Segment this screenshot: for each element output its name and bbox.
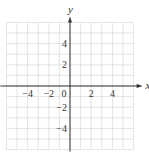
y-axis-arrow-icon xyxy=(68,16,72,22)
x-axis-arrow-icon xyxy=(137,84,143,88)
y-axis-label: y xyxy=(67,3,73,15)
y-tick-label: −4 xyxy=(56,123,67,134)
x-tick-label: −2 xyxy=(43,88,54,99)
y-tick-label: −2 xyxy=(56,102,67,113)
x-tick-label: 2 xyxy=(89,88,94,99)
y-tick-label: 4 xyxy=(62,38,67,49)
x-tick-labels: −4−2024 xyxy=(22,88,115,99)
x-tick-label: 4 xyxy=(110,88,115,99)
coordinate-plane: x y −4−2024 42−2−4 xyxy=(0,0,149,161)
x-axis-label: x xyxy=(145,79,149,91)
x-tick-label: −4 xyxy=(22,88,33,99)
axes xyxy=(0,16,142,151)
y-tick-label: 2 xyxy=(62,59,67,70)
x-tick-label: 0 xyxy=(62,88,67,99)
